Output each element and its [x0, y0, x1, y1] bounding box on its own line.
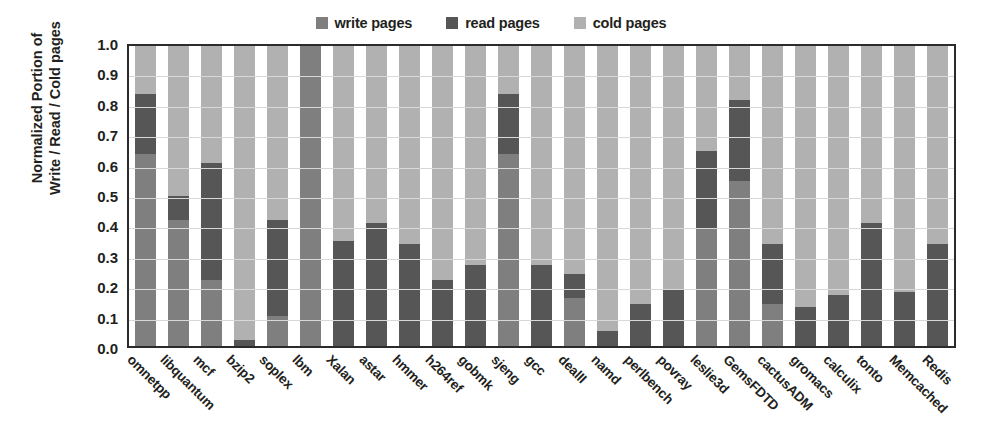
bar-tonto[interactable]	[861, 46, 883, 346]
bar-segment-write	[300, 46, 322, 346]
bar-slot	[426, 46, 459, 346]
bar-segment-cold	[630, 46, 652, 304]
bar-segment-write	[498, 154, 520, 346]
bar-segment-read	[168, 196, 190, 220]
bar-dealII[interactable]	[564, 46, 586, 346]
bar-segment-cold	[531, 46, 553, 265]
square-swatch-icon	[446, 17, 458, 29]
bar-segment-read	[762, 244, 784, 304]
bar-slot	[228, 46, 261, 346]
bar-segment-read	[531, 265, 553, 346]
bar-slot	[690, 46, 723, 346]
legend-label: read pages	[465, 15, 540, 31]
bar-segment-read	[267, 220, 289, 316]
bar-Memcached[interactable]	[894, 46, 916, 346]
bar-segment-read	[201, 163, 223, 280]
bar-h264ref[interactable]	[432, 46, 454, 346]
bar-segment-read	[564, 274, 586, 298]
bar-segment-cold	[564, 46, 586, 274]
bar-segment-cold	[234, 46, 256, 340]
bar-slot	[195, 46, 228, 346]
x-tick-label-mcf: mcf	[190, 352, 217, 379]
bar-slot	[921, 46, 954, 346]
bar-segment-cold	[696, 46, 718, 151]
bar-bzip2[interactable]	[234, 46, 256, 346]
bar-segment-read	[333, 241, 355, 346]
bar-hmmer[interactable]	[399, 46, 421, 346]
bar-gcc[interactable]	[531, 46, 553, 346]
bar-slot	[789, 46, 822, 346]
bar-gromacs[interactable]	[795, 46, 817, 346]
bar-segment-read	[432, 280, 454, 346]
bar-povray[interactable]	[663, 46, 685, 346]
bar-segment-cold	[597, 46, 619, 331]
y-axis-title-line2: Write / Read / Cold pages	[46, 21, 64, 195]
bar-calculix[interactable]	[828, 46, 850, 346]
bar-segment-cold	[927, 46, 949, 244]
legend-entry-write-pages[interactable]: write pages	[316, 15, 413, 31]
bar-slot	[393, 46, 426, 346]
bar-segment-read	[630, 304, 652, 346]
square-swatch-icon	[574, 17, 586, 29]
bar-Redis[interactable]	[927, 46, 949, 346]
bar-GemsFDTD[interactable]	[729, 46, 751, 346]
bar-soplex[interactable]	[267, 46, 289, 346]
bar-leslie3d[interactable]	[696, 46, 718, 346]
bar-slot	[591, 46, 624, 346]
bar-slot	[855, 46, 888, 346]
bar-slot	[723, 46, 756, 346]
bar-namd[interactable]	[597, 46, 619, 346]
y-tick-label: 0.4	[97, 218, 118, 235]
legend-label: write pages	[335, 15, 413, 31]
bar-segment-read	[366, 223, 388, 346]
bar-astar[interactable]	[366, 46, 388, 346]
y-tick-label: 0.7	[97, 127, 118, 144]
bar-slot	[624, 46, 657, 346]
bar-segment-cold	[729, 46, 751, 100]
bar-segment-read	[498, 94, 520, 154]
bar-segment-cold	[399, 46, 421, 244]
y-tick-label: 0.3	[97, 248, 118, 265]
y-tick-label: 0.6	[97, 157, 118, 174]
legend-entry-read-pages[interactable]: read pages	[446, 15, 540, 31]
y-axis-title: Normalized Portion of Write / Read / Col…	[26, 0, 66, 258]
bar-segment-cold	[201, 46, 223, 163]
bar-slot	[657, 46, 690, 346]
bar-segment-write	[696, 229, 718, 346]
bar-lbm[interactable]	[300, 46, 322, 346]
y-tick-label: 0.8	[97, 96, 118, 113]
bar-perlbench[interactable]	[630, 46, 652, 346]
bar-segment-cold	[135, 46, 157, 94]
bar-slot	[327, 46, 360, 346]
y-tick-label: 0.9	[97, 66, 118, 83]
chart-legend: write pagesread pagescold pages	[0, 10, 982, 36]
bar-segment-cold	[861, 46, 883, 223]
y-axis-tick-labels: 0.00.10.20.30.40.50.60.70.80.91.0	[78, 44, 122, 348]
bar-slot	[162, 46, 195, 346]
bar-segment-cold	[762, 46, 784, 244]
bar-segment-read	[597, 331, 619, 346]
bar-segment-read	[234, 340, 256, 346]
x-tick-label-gcc: gcc	[522, 352, 549, 379]
bar-segment-cold	[366, 46, 388, 223]
bar-mcf[interactable]	[201, 46, 223, 346]
x-tick-label-dealII: dealII	[555, 352, 589, 386]
x-tick-label-bzip2: bzip2	[223, 352, 257, 386]
bar-segment-read	[861, 223, 883, 346]
x-axis-tick-labels: omnetpplibquantummcfbzip2soplexlbmXalana…	[127, 348, 956, 445]
bar-omnetpp[interactable]	[135, 46, 157, 346]
bar-segment-write	[135, 154, 157, 346]
bar-slot	[261, 46, 294, 346]
bar-segment-write	[762, 304, 784, 346]
bar-segment-cold	[333, 46, 355, 241]
bar-cactusADM[interactable]	[762, 46, 784, 346]
plot-area	[127, 44, 956, 348]
bar-slot	[492, 46, 525, 346]
legend-entry-cold-pages[interactable]: cold pages	[574, 15, 667, 31]
legend-label: cold pages	[593, 15, 667, 31]
bar-gobmk[interactable]	[465, 46, 487, 346]
bar-libquantum[interactable]	[168, 46, 190, 346]
bar-Xalan[interactable]	[333, 46, 355, 346]
bar-sjeng[interactable]	[498, 46, 520, 346]
bar-slot	[294, 46, 327, 346]
